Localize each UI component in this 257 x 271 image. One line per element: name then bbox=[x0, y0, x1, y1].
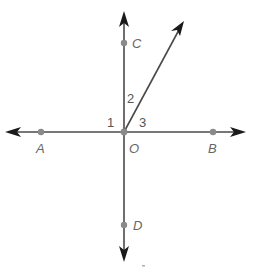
angle-label-1: 1 bbox=[107, 115, 114, 130]
point-b bbox=[210, 129, 216, 135]
point-c bbox=[121, 40, 127, 46]
label-b: B bbox=[208, 141, 217, 156]
point-a bbox=[38, 129, 44, 135]
point-o bbox=[121, 129, 128, 136]
angle-label-3: 3 bbox=[139, 115, 146, 130]
angle-diagram: A B C D O 1 2 3 bbox=[0, 0, 257, 271]
angle-label-2: 2 bbox=[127, 91, 134, 106]
label-c: C bbox=[132, 36, 142, 51]
label-d: D bbox=[133, 218, 142, 233]
speck bbox=[142, 265, 145, 267]
point-d bbox=[121, 222, 127, 228]
label-o: O bbox=[129, 141, 139, 156]
label-a: A bbox=[35, 141, 45, 156]
